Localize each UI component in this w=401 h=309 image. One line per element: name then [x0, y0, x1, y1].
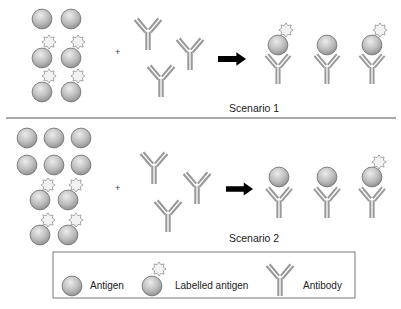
- antigen-icon: [61, 48, 81, 68]
- immunoassay-diagram: [0, 0, 401, 309]
- reaction-arrow-icon: [226, 182, 253, 195]
- antigen-icon: [30, 190, 50, 210]
- antigen-icon: [17, 155, 37, 175]
- antigen-icon: [317, 35, 337, 55]
- antibody-icon: [135, 18, 162, 50]
- antigen-icon: [269, 167, 289, 187]
- antigen-icon: [32, 82, 52, 102]
- scenario-1-antigen-pool: [32, 9, 85, 102]
- label-star-icon: [42, 35, 56, 49]
- legend-label-labelled-antigen: Labelled antigen: [175, 281, 248, 291]
- label-star-icon: [71, 35, 85, 49]
- legend: [53, 252, 355, 298]
- label-star-icon: [71, 69, 85, 83]
- labelled-antigen-icon: [142, 276, 162, 296]
- reaction-arrow-icon: [218, 52, 246, 66]
- label-star-icon: [41, 213, 55, 227]
- scenario-1-label: Scenario 1: [229, 103, 279, 114]
- label-star-icon: [69, 213, 83, 227]
- label-star-icon: [41, 178, 55, 192]
- antigen-icon: [17, 128, 37, 148]
- label-star-icon: [372, 155, 386, 169]
- scenario-2-label: Scenario 2: [229, 233, 279, 244]
- antigen-icon: [268, 35, 288, 55]
- antibody-icon: [155, 200, 182, 232]
- scenario-2-antibody-pool: [141, 152, 211, 232]
- antigen-icon: [61, 82, 81, 102]
- scenario-1: [32, 9, 387, 102]
- antibody-icon: [184, 172, 211, 204]
- label-star-icon: [69, 178, 83, 192]
- antigen-icon: [30, 225, 50, 245]
- plus-operator: +: [115, 48, 120, 57]
- antigen-icon: [71, 155, 91, 175]
- scenario-2-antigen-pool: [17, 128, 91, 245]
- antigen-icon: [32, 9, 52, 29]
- scenario-1-products: [265, 23, 387, 84]
- label-star-icon: [42, 69, 56, 83]
- antibody-icon: [265, 54, 290, 84]
- scenario-1-antibody-pool: [135, 18, 204, 97]
- scenario-2-products: [266, 155, 386, 218]
- label-star-icon: [373, 23, 387, 37]
- antibody-icon: [148, 65, 175, 97]
- antigen-icon: [58, 225, 78, 245]
- antibody-icon: [314, 54, 339, 84]
- antigen-icon: [71, 128, 91, 148]
- antigen-icon: [62, 276, 82, 296]
- antigen-icon: [32, 48, 52, 68]
- antibody-icon: [266, 187, 292, 218]
- antibody-icon: [359, 54, 384, 84]
- antigen-icon: [61, 9, 81, 29]
- scenario-2: [17, 128, 386, 245]
- antigen-icon: [362, 167, 382, 187]
- antibody-icon: [141, 152, 168, 184]
- legend-label-antibody: Antibody: [303, 281, 342, 291]
- antigen-icon: [44, 155, 64, 175]
- label-star-icon: [152, 262, 166, 276]
- antigen-icon: [58, 190, 78, 210]
- antigen-icon: [317, 167, 337, 187]
- legend-box: [53, 252, 355, 298]
- antibody-icon: [177, 38, 204, 70]
- legend-label-antigen: Antigen: [90, 281, 124, 291]
- antibody-icon: [359, 187, 385, 218]
- plus-operator: +: [115, 184, 120, 193]
- antibody-icon: [314, 187, 340, 218]
- label-star-icon: [279, 23, 293, 37]
- antigen-icon: [44, 128, 64, 148]
- antigen-icon: [362, 35, 382, 55]
